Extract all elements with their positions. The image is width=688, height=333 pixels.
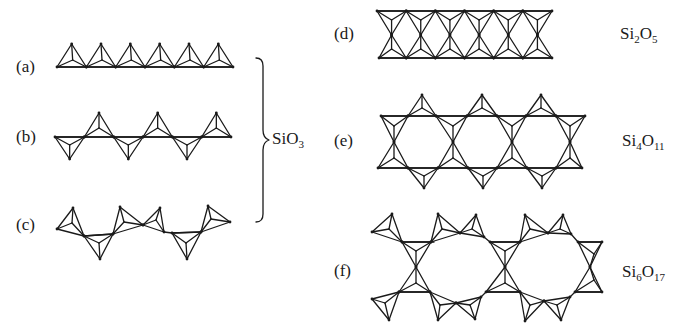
label-c: (c) — [16, 216, 35, 233]
formula-si4o11: Si4O11 — [622, 132, 665, 152]
label-e: (e) — [334, 132, 353, 149]
sheet-d — [376, 10, 554, 60]
label-d: (d) — [334, 25, 354, 42]
chain-a — [56, 43, 235, 69]
chain-b — [54, 112, 233, 161]
formula-si6o17: Si6O17 — [622, 263, 665, 283]
chain-c — [56, 205, 232, 261]
double-chain-e — [377, 94, 587, 190]
label-a: (a) — [16, 58, 35, 75]
formula-si2o5: Si2O5 — [620, 25, 657, 45]
formula-sio3: SiO3 — [272, 130, 304, 150]
silicate-diagram-canvas — [0, 0, 688, 333]
double-chain-f — [371, 213, 604, 323]
silicate-structures-figure: (a) (b) (c) SiO3 (d) (e) (f) Si2O5 Si4O1… — [0, 0, 688, 333]
label-b: (b) — [16, 128, 36, 145]
label-f: (f) — [334, 262, 351, 279]
curly-brace — [256, 58, 269, 222]
